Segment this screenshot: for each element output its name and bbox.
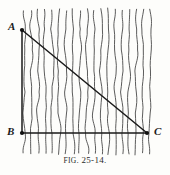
vertex-dot-a <box>20 28 24 32</box>
field-line <box>92 11 95 154</box>
field-line <box>121 10 124 153</box>
field-line <box>51 10 54 153</box>
vertex-dot-b <box>20 131 24 135</box>
field-line <box>37 9 40 153</box>
field-line <box>99 9 102 154</box>
field-line <box>72 9 75 154</box>
figure-drawing <box>0 0 170 175</box>
caption-prefix: Fig <box>63 156 76 165</box>
vertex-dot-c <box>145 131 149 135</box>
figure-caption: Fig. 25-14. <box>0 155 170 165</box>
field-line <box>78 11 81 153</box>
vertex-label-a: A <box>8 21 15 32</box>
field-line <box>142 9 144 152</box>
field-line <box>85 9 89 154</box>
figure-container: A B C Fig. 25-14. <box>0 0 170 175</box>
vertex-label-b: B <box>7 126 14 137</box>
caption-number: . 25-14. <box>76 155 106 165</box>
field-line <box>43 9 46 153</box>
vertex-label-c: C <box>154 126 161 137</box>
field-line <box>149 9 152 154</box>
